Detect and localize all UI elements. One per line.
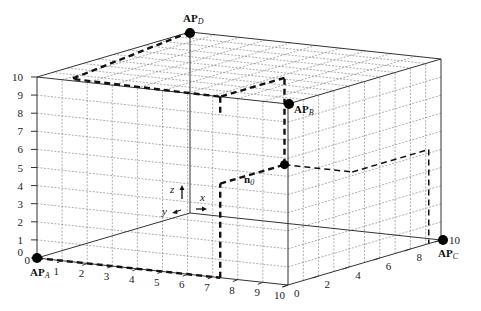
z-tick: 7 <box>18 125 24 137</box>
room-edges <box>37 32 441 285</box>
path-ap-d-ceiling <box>72 32 221 97</box>
z-tick: 1 <box>18 234 24 246</box>
ceiling-grid-a <box>137 43 290 88</box>
y-arrow-icon <box>172 210 178 215</box>
y-tick: 8 <box>416 251 422 263</box>
ap-labels: APD APB APC APA n0 <box>30 12 459 280</box>
axis-ticks: 0123456789100123456789100246810 <box>12 71 461 301</box>
ap-c-label: APC <box>438 247 459 261</box>
ap-d-point-icon <box>185 28 195 38</box>
x-tick: 4 <box>129 273 135 285</box>
z-tick: 2 <box>18 216 24 228</box>
ap-a-label: APA <box>30 266 50 280</box>
y-tick: 2 <box>325 278 331 290</box>
z-tick: 6 <box>18 143 24 155</box>
ceiling-grid-b <box>129 50 380 77</box>
x-tick-mark <box>233 280 238 282</box>
x-tick-mark <box>82 263 87 265</box>
node-n0-point-icon <box>280 160 289 169</box>
x-tick: 6 <box>179 278 185 290</box>
x-tick: 5 <box>154 276 160 288</box>
x-tick: 9 <box>254 286 260 298</box>
z-tick: 9 <box>18 89 24 101</box>
room-edge <box>190 32 441 59</box>
ap-b-label: APB <box>294 103 314 117</box>
x-arrow-icon <box>202 207 207 212</box>
axis-indicator: z y x <box>161 183 207 217</box>
ceiling-grid-a <box>263 56 416 101</box>
z-tick: 5 <box>18 162 24 174</box>
x-tick: 8 <box>229 284 235 296</box>
z-tick: 3 <box>18 198 24 210</box>
x-tick: 7 <box>204 281 210 293</box>
z-tick: 10 <box>12 71 24 83</box>
ceiling-grid-b <box>114 55 365 82</box>
y-tick: 0 <box>294 287 300 299</box>
z-axis-label: z <box>169 183 175 195</box>
room-edge <box>37 32 190 77</box>
ceiling-grid-a <box>112 40 265 85</box>
z-tick: 4 <box>18 180 24 192</box>
room-3d-diagram: 0123456789100123456789100246810 z y x AP… <box>0 0 481 311</box>
room-edge <box>190 213 441 240</box>
x-tick: 1 <box>54 265 60 277</box>
z-arrow-icon <box>180 185 185 190</box>
path-n0-right-wall <box>352 149 429 172</box>
y-tick: 4 <box>355 269 361 281</box>
ceiling-grid-b <box>159 41 410 68</box>
x-tick: 2 <box>79 267 85 279</box>
ap-a-point-icon <box>32 253 42 263</box>
ceiling-grid-b <box>175 37 426 64</box>
ceiling-grid-a <box>238 54 391 99</box>
ap-c-point-icon <box>438 235 448 245</box>
y-tick: 6 <box>386 260 392 272</box>
origin-tick: 0 <box>25 254 31 266</box>
ap-d-label: APD <box>183 12 204 26</box>
y-tick: 10 <box>449 234 461 246</box>
x-tick: 10 <box>274 289 286 301</box>
diagram-canvas: 0123456789100123456789100246810 z y x AP… <box>0 0 481 311</box>
ap-b-point-icon <box>284 99 294 109</box>
x-axis-label: x <box>199 191 205 203</box>
x-tick-mark <box>258 282 263 284</box>
grid-lines <box>37 35 441 283</box>
z-tick: 8 <box>18 107 24 119</box>
z-tick: 0 <box>18 246 24 258</box>
y-axis-label: y <box>161 205 167 217</box>
x-tick: 3 <box>104 270 110 282</box>
